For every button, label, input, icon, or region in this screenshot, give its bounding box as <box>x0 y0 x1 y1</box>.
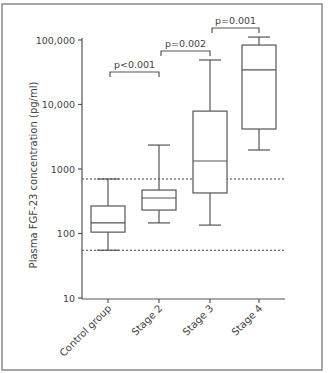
significance-brackets: p<0.001p=0.002p=0.001 <box>110 15 259 77</box>
y-tick-label: 10,000 <box>42 99 75 110</box>
p-value-label: p<0.001 <box>114 59 155 70</box>
p-value-label: p=0.002 <box>165 38 206 49</box>
box-control-group <box>91 179 125 250</box>
box-stage-2 <box>142 145 176 223</box>
x-ticks: Control groupStage 2Stage 3Stage 4 <box>57 299 264 359</box>
x-category-label: Control group <box>57 303 113 359</box>
box-stage-3 <box>193 60 227 225</box>
y-ticks: 10100100010,000100,000 <box>36 35 82 304</box>
p-value-bracket: p<0.001 <box>110 59 159 77</box>
y-tick-label: 100,000 <box>36 35 75 46</box>
y-tick-label: 10 <box>63 293 75 304</box>
fgf23-boxplot-chart: 10100100010,000100,000 Control groupStag… <box>0 0 329 373</box>
p-value-label: p=0.001 <box>215 15 256 26</box>
x-category-label: Stage 3 <box>180 303 215 338</box>
y-tick-label: 100 <box>57 228 75 239</box>
p-value-bracket: p=0.002 <box>161 38 210 56</box>
y-axis-label: Plasma FGF-23 concentration (pg/ml) <box>28 82 39 269</box>
box-stage-4 <box>242 37 276 150</box>
x-category-label: Stage 4 <box>229 303 264 338</box>
y-tick-label: 1000 <box>51 164 75 175</box>
p-value-bracket: p=0.001 <box>212 15 259 33</box>
x-category-label: Stage 2 <box>129 303 164 338</box>
